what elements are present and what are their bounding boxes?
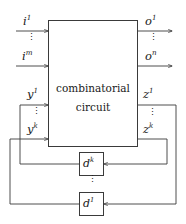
delay-dk-label: dk — [83, 158, 94, 169]
circuit-label-line1: combinatorial — [48, 82, 138, 94]
state-out-zk-label: zk — [143, 124, 153, 136]
delay-dk-base: d — [83, 157, 90, 170]
input-im-label: im — [22, 51, 32, 63]
input-i1-sup: 1 — [27, 13, 32, 22]
input-im-sup: m — [26, 48, 33, 57]
delay-d1-base: d — [83, 197, 90, 210]
output-on-sup: n — [152, 48, 157, 57]
output-o1-label: o1 — [145, 16, 156, 28]
output-o1-base: o — [145, 14, 152, 28]
input-ellipsis: ⋮ — [25, 36, 37, 39]
state-in-yk-label: yk — [27, 124, 38, 136]
output-ellipsis: ⋮ — [147, 36, 159, 39]
output-on-base: o — [145, 49, 152, 63]
circuit-label-line2: circuit — [48, 101, 138, 113]
circuit-diagram: combinatorial circuit i1 im ⋮ o1 on ⋮ y1… — [0, 0, 186, 224]
output-on-label: on — [145, 51, 157, 63]
output-o1-sup: 1 — [152, 13, 157, 22]
state-out-z1-label: z1 — [143, 89, 154, 101]
state-out-zk-sup: k — [149, 121, 153, 130]
state-in-ellipsis: ⋮ — [30, 110, 42, 113]
state-in-y1-label: y1 — [27, 89, 38, 101]
input-i1-label: i1 — [23, 16, 31, 28]
delay-d1-sup: 1 — [90, 196, 94, 204]
delay-dk-sup: k — [90, 156, 94, 164]
delay-d1-label: d1 — [83, 198, 94, 209]
delay-ellipsis: ⋮ — [86, 178, 98, 181]
state-in-y1-sup: 1 — [34, 86, 39, 95]
state-in-yk-sup: k — [34, 121, 38, 130]
state-out-z1-sup: 1 — [149, 86, 154, 95]
state-out-ellipsis: ⋮ — [146, 111, 158, 114]
